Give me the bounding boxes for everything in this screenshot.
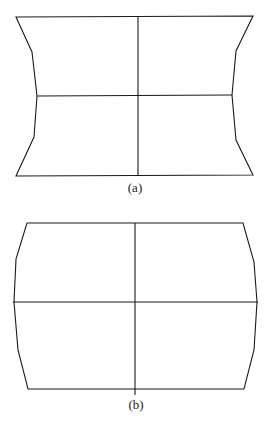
panel-a-caption: (a)	[128, 180, 142, 195]
panel-b-caption: (b)	[128, 397, 143, 412]
panel-a-horizontal-axis	[37, 95, 232, 96]
panel-b-barrel: (b)	[13, 223, 258, 412]
panel-a-pincushion: (a)	[16, 16, 253, 195]
distortion-diagram: (a) (b)	[0, 0, 269, 423]
